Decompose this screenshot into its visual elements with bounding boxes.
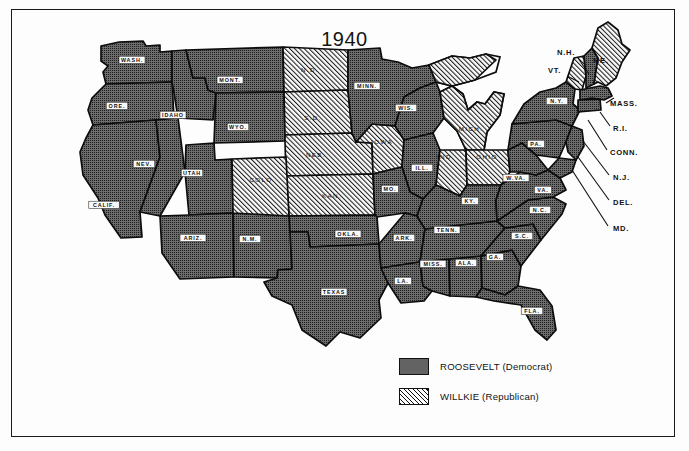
map-legend: ROOSEVELT (Democrat) WILLKIE (Republican… <box>399 355 629 415</box>
svg-text:FLA.: FLA. <box>524 308 540 314</box>
state-label-mont: MONT. <box>217 76 243 83</box>
legend-swatch-roosevelt <box>399 358 429 375</box>
callout-label-vt: VT. <box>548 66 561 75</box>
callout-labels: N.H.VT.ME.MASS.R.I.CONN.N.J.DEL.MD. <box>548 48 638 233</box>
state-label-colo: COLO <box>249 176 272 183</box>
svg-text:W.VA.: W.VA. <box>506 175 525 181</box>
state-label-ind: IND. <box>437 153 455 160</box>
svg-text:LA.: LA. <box>397 278 408 284</box>
svg-text:N.D.: N.D. <box>301 66 319 73</box>
svg-text:ILL.: ILL. <box>415 165 428 171</box>
legend-swatch-willkie <box>399 388 429 405</box>
svg-text:TENN.: TENN. <box>437 227 458 233</box>
svg-text:NEV.: NEV. <box>136 161 152 167</box>
state-label-ariz: ARIZ. <box>180 234 206 241</box>
state-label-wash: WASH. <box>119 56 145 63</box>
legend-label-willkie: WILLKIE (Republican) <box>440 391 539 402</box>
svg-text:N.M.: N.M. <box>243 236 258 242</box>
state-label-ore: ORE. <box>106 102 128 109</box>
svg-text:OKLA.: OKLA. <box>337 231 358 237</box>
state-labels: WASH.ORE.CALIF.NEV.IDAHOMONT.WYO.UTAHARI… <box>89 56 568 314</box>
svg-text:S.C.: S.C. <box>515 233 529 239</box>
svg-text:N.Y.: N.Y. <box>550 98 564 104</box>
state-label-minn: MINN. <box>354 82 380 89</box>
state-label-ala: ALA. <box>455 259 477 266</box>
svg-text:IND.: IND. <box>437 153 455 160</box>
state-label-ohio: OHIO <box>476 153 497 160</box>
svg-text:OHIO: OHIO <box>476 153 497 160</box>
svg-text:MINN.: MINN. <box>357 83 377 89</box>
callout-label-ri: R.I. <box>613 124 628 133</box>
state-label-okla: OKLA. <box>335 230 361 237</box>
svg-text:PA.: PA. <box>530 141 541 147</box>
svg-text:S.D.: S.D. <box>304 114 322 121</box>
callout-label-mass: MASS. <box>610 99 638 108</box>
state-label-mich: MICH. <box>459 125 484 132</box>
state-label-va: VA. <box>534 186 551 193</box>
svg-text:IDAHO: IDAHO <box>162 112 184 118</box>
state-label-idaho: IDAHO <box>160 111 186 118</box>
state-label-wva: W.VA. <box>503 174 529 181</box>
callout-label-del: DEL. <box>613 198 633 207</box>
state-label-ga: GA. <box>486 253 503 260</box>
legend-row-willkie: WILLKIE (Republican) <box>399 385 629 407</box>
svg-text:TEXAS: TEXAS <box>323 289 345 295</box>
svg-text:VA.: VA. <box>537 187 548 193</box>
callout-label-md: MD. <box>613 224 629 233</box>
state-label-nm: N.M. <box>239 235 261 242</box>
state-label-sd: S.D. <box>304 114 322 121</box>
state-label-sc: S.C. <box>511 232 533 239</box>
svg-text:IOWA: IOWA <box>371 138 393 145</box>
svg-text:MONT.: MONT. <box>219 77 240 83</box>
election-map-page: 1940 <box>0 0 689 451</box>
legend-label-roosevelt: ROOSEVELT (Democrat) <box>440 361 552 372</box>
svg-text:UTAH: UTAH <box>183 170 201 176</box>
state-label-miss: MISS. <box>420 260 446 267</box>
state-label-nd: N.D. <box>301 66 319 73</box>
svg-text:GA.: GA. <box>489 254 501 260</box>
svg-text:MICH.: MICH. <box>459 125 484 132</box>
state-label-nev: NEV. <box>133 160 155 167</box>
svg-text:ALA.: ALA. <box>458 260 474 266</box>
state-label-neb: NEB. <box>306 151 326 158</box>
state-label-ky: KY. <box>461 197 478 204</box>
callout-label-me: ME. <box>593 56 609 65</box>
state-label-tenn: TENN. <box>434 226 460 233</box>
svg-text:NEB.: NEB. <box>306 151 326 158</box>
svg-text:COLO: COLO <box>249 176 272 183</box>
state-label-utah: UTAH <box>181 169 203 176</box>
state-label-ill: ILL. <box>411 164 433 171</box>
state-label-iowa: IOWA <box>371 138 393 145</box>
svg-text:MISS.: MISS. <box>423 261 442 267</box>
legend-row-roosevelt: ROOSEVELT (Democrat) <box>399 355 629 377</box>
svg-text:ARK.: ARK. <box>396 235 413 241</box>
callout-label-nh: N.H. <box>557 48 575 57</box>
state-label-wyo: WYO. <box>227 123 249 130</box>
state-label-pa: PA. <box>527 140 544 147</box>
state-label-fla: FLA. <box>521 307 543 314</box>
svg-text:WYO.: WYO. <box>229 124 247 130</box>
state-label-texas: TEXAS <box>321 288 347 295</box>
state-label-mo: MO. <box>381 185 398 192</box>
svg-text:MO.: MO. <box>384 186 397 192</box>
state-label-ark: ARK. <box>393 234 415 241</box>
svg-text:WIS.: WIS. <box>398 105 413 111</box>
svg-text:KAN.: KAN. <box>322 192 342 199</box>
state-label-la: LA. <box>394 277 411 284</box>
svg-text:WASH.: WASH. <box>121 57 143 63</box>
svg-text:KY.: KY. <box>464 198 475 204</box>
svg-text:N.C.: N.C. <box>533 207 547 213</box>
svg-text:ARIZ.: ARIZ. <box>184 235 203 241</box>
callout-label-nj: N.J. <box>613 173 630 182</box>
state-label-kan: KAN. <box>322 192 342 199</box>
svg-text:ORE.: ORE. <box>109 103 126 109</box>
svg-text:CALIF.: CALIF. <box>93 202 115 208</box>
state-label-ny: N.Y. <box>546 97 568 104</box>
state-label-nc: N.C. <box>529 206 551 213</box>
state-label-wis: WIS. <box>395 104 417 111</box>
callout-label-conn: CONN. <box>610 148 638 157</box>
state-label-calif: CALIF. <box>89 201 119 208</box>
